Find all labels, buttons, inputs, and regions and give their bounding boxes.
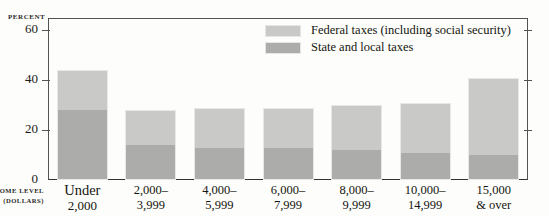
x-axis-category-label: 8,000–9,999 — [322, 183, 391, 212]
x-label-line2: 9,999 — [322, 198, 391, 213]
y-tick-label: 0 — [0, 171, 38, 187]
x-axis-title-line1: INCOME LEVEL — [0, 187, 44, 194]
x-axis-labels: Under2,0002,000–3,9994,000–5,9996,000–7,… — [48, 183, 528, 216]
x-axis-category-label: 4,000–5,999 — [185, 183, 254, 212]
y-tick-label: 20 — [0, 121, 38, 137]
bar-segment-state-local — [57, 110, 108, 180]
x-label-line2: 7,999 — [254, 198, 323, 213]
bar-4 — [263, 108, 314, 180]
x-label-line1: 4,000– — [202, 183, 236, 197]
bar-segment-federal — [331, 105, 382, 150]
bar-segment-state-local — [194, 148, 245, 180]
legend-label-state-local: State and local taxes — [311, 40, 413, 55]
x-label-line2: 14,999 — [391, 198, 460, 213]
legend: Federal taxes (including social security… — [265, 22, 511, 56]
x-label-line1: 8,000– — [339, 183, 373, 197]
bar-segment-state-local — [400, 153, 451, 180]
x-axis-title: INCOME LEVEL (DOLLARS) — [0, 186, 44, 206]
bar-3 — [194, 108, 245, 180]
bar-7 — [468, 78, 519, 180]
bar-segment-state-local — [468, 155, 519, 180]
bar-segment-federal — [263, 108, 314, 148]
x-axis-category-label: 10,000–14,999 — [391, 183, 460, 212]
bar-6 — [400, 103, 451, 180]
x-axis-title-line2: (DOLLARS) — [0, 196, 44, 206]
bar-segment-federal — [468, 78, 519, 155]
x-label-line1: 2,000– — [134, 183, 168, 197]
bar-segment-federal — [125, 110, 176, 145]
x-label-line2: 5,999 — [185, 198, 254, 213]
bar-segment-federal — [400, 103, 451, 153]
x-label-line1: 15,000 — [477, 183, 511, 197]
bar-segment-federal — [194, 108, 245, 148]
legend-label-federal: Federal taxes (including social security… — [311, 23, 511, 38]
x-axis-category-label: Under2,000 — [48, 183, 117, 213]
bar-2 — [125, 110, 176, 180]
bar-1 — [57, 70, 108, 180]
bar-segment-state-local — [263, 148, 314, 180]
legend-swatch-federal-icon — [265, 25, 301, 37]
y-tick-label: 60 — [0, 21, 38, 37]
bar-5 — [331, 105, 382, 180]
legend-item-federal: Federal taxes (including social security… — [265, 22, 511, 39]
y-axis-title: PERCENT — [8, 13, 45, 21]
legend-item-state-local: State and local taxes — [265, 39, 511, 56]
y-tick-label: 40 — [0, 71, 38, 87]
bar-segment-state-local — [331, 150, 382, 180]
x-label-line1: 6,000– — [271, 183, 305, 197]
bar-segment-state-local — [125, 145, 176, 180]
x-axis-category-label: 6,000–7,999 — [254, 183, 323, 212]
x-label-line2: 2,000 — [48, 199, 117, 214]
x-axis-category-label: 2,000–3,999 — [117, 183, 186, 212]
legend-swatch-state-local-icon — [265, 42, 301, 54]
x-label-line2: & over — [459, 198, 528, 213]
x-label-line2: 3,999 — [117, 198, 186, 213]
tax-burden-bar-chart: PERCENT 0204060 Federal taxes (including… — [0, 0, 549, 216]
x-label-line1: 10,000– — [405, 183, 446, 197]
bar-segment-federal — [57, 70, 108, 110]
x-label-line1: Under — [64, 182, 100, 198]
x-axis-category-label: 15,000& over — [459, 183, 528, 212]
